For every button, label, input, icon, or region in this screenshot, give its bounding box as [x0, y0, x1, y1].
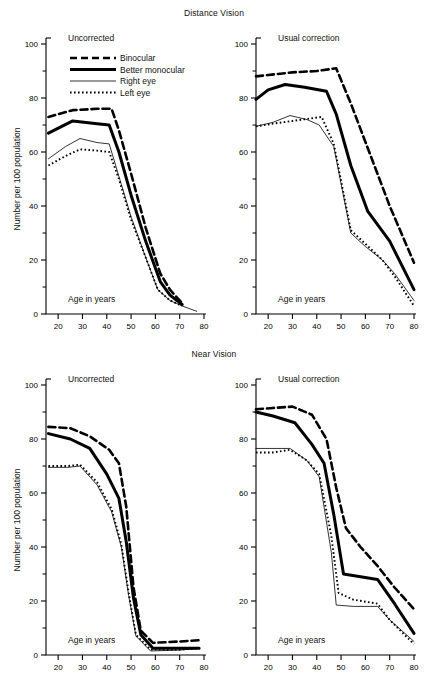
x-axis-caption: Age in years — [278, 635, 325, 645]
y-tick-label: 40 — [239, 543, 248, 552]
panel-caption: Usual correction — [278, 33, 340, 43]
y-tick-label: 0 — [244, 651, 249, 660]
x-tick-label: 70 — [175, 322, 184, 331]
y-tick-label: 20 — [29, 256, 38, 265]
y-tick-label: 60 — [29, 489, 38, 498]
x-tick-label: 40 — [102, 322, 111, 331]
y-tick-label: 100 — [235, 381, 249, 390]
section-distance-vision: Distance Vision 020406080100203040506070… — [0, 0, 428, 341]
x-tick-label: 20 — [54, 663, 63, 672]
y-tick-label: 80 — [239, 435, 248, 444]
legend-label-binocular: Binocular — [120, 53, 156, 63]
y-tick-label: 80 — [29, 435, 38, 444]
x-tick-label: 80 — [410, 663, 419, 672]
x-tick-label: 70 — [175, 663, 184, 672]
plot-near-usual-correction: 02040608010020304050607080Usual correcti… — [218, 363, 420, 673]
y-tick-label: 40 — [239, 202, 248, 211]
panel-near-uncorrected: 02040608010020304050607080UncorrectedAge… — [8, 363, 210, 673]
panel-near-usual-correction: 02040608010020304050607080Usual correcti… — [218, 363, 420, 673]
axis-spine — [256, 379, 416, 655]
y-axis-label: Number per 100 population — [12, 468, 22, 571]
x-tick-label: 70 — [385, 663, 394, 672]
x-tick-label: 50 — [337, 322, 346, 331]
x-axis-caption: Age in years — [278, 294, 325, 304]
x-tick-label: 30 — [78, 663, 87, 672]
section-title-near: Near Vision — [0, 349, 428, 359]
y-tick-label: 20 — [239, 597, 248, 606]
y-tick-label: 100 — [25, 40, 39, 49]
series-line-binocular — [256, 68, 414, 262]
section-near-vision: Near Vision 02040608010020304050607080Un… — [0, 341, 428, 682]
y-tick-label: 20 — [239, 256, 248, 265]
x-tick-label: 50 — [127, 663, 136, 672]
y-tick-label: 40 — [29, 543, 38, 552]
y-tick-label: 60 — [239, 148, 248, 157]
plot-distance-uncorrected: 02040608010020304050607080UncorrectedAge… — [8, 22, 210, 332]
vision-charts-figure: Distance Vision 020406080100203040506070… — [0, 0, 428, 682]
x-tick-label: 70 — [385, 322, 394, 331]
y-tick-label: 20 — [29, 597, 38, 606]
legend-label-better-monocular: Better monocular — [120, 65, 185, 75]
y-tick-label: 60 — [239, 489, 248, 498]
plot-distance-usual-correction: 02040608010020304050607080Usual correcti… — [218, 22, 420, 332]
plot-near-uncorrected: 02040608010020304050607080UncorrectedAge… — [8, 363, 210, 673]
x-axis-caption: Age in years — [68, 294, 115, 304]
x-tick-label: 80 — [410, 322, 419, 331]
x-tick-label: 40 — [312, 322, 321, 331]
series-line-better-monocular — [48, 121, 182, 305]
y-tick-label: 0 — [34, 310, 39, 319]
series-line-binocular — [256, 407, 414, 609]
axis-spine — [256, 38, 416, 314]
legend-label-left-eye: Left eye — [120, 88, 151, 98]
y-tick-label: 0 — [244, 310, 249, 319]
x-tick-label: 30 — [288, 663, 297, 672]
x-tick-label: 20 — [264, 322, 273, 331]
series-line-better-monocular — [256, 85, 414, 290]
x-tick-label: 30 — [78, 322, 87, 331]
y-tick-label: 100 — [235, 40, 249, 49]
x-tick-label: 60 — [151, 322, 160, 331]
y-tick-label: 80 — [29, 94, 38, 103]
x-tick-label: 20 — [264, 663, 273, 672]
x-tick-label: 30 — [288, 322, 297, 331]
y-tick-label: 40 — [29, 202, 38, 211]
x-tick-label: 50 — [337, 663, 346, 672]
series-line-better-monocular — [48, 434, 199, 649]
series-line-better-monocular — [256, 412, 414, 633]
y-tick-label: 100 — [25, 381, 39, 390]
x-tick-label: 60 — [361, 322, 370, 331]
y-tick-label: 0 — [34, 651, 39, 660]
x-tick-label: 80 — [200, 663, 209, 672]
y-tick-label: 80 — [239, 94, 248, 103]
section-title-distance: Distance Vision — [0, 8, 428, 18]
x-tick-label: 50 — [127, 322, 136, 331]
y-axis-label: Number per 100 population — [12, 127, 22, 230]
x-tick-label: 40 — [102, 663, 111, 672]
x-axis-caption: Age in years — [68, 635, 115, 645]
x-tick-label: 60 — [151, 663, 160, 672]
panel-caption: Uncorrected — [68, 33, 115, 43]
x-tick-label: 80 — [200, 322, 209, 331]
y-tick-label: 60 — [29, 148, 38, 157]
x-tick-label: 20 — [54, 322, 63, 331]
x-tick-label: 40 — [312, 663, 321, 672]
panel-caption: Uncorrected — [68, 374, 115, 384]
legend-label-right-eye: Right eye — [120, 76, 156, 86]
panel-caption: Usual correction — [278, 374, 340, 384]
panel-distance-uncorrected: 02040608010020304050607080UncorrectedAge… — [8, 22, 210, 332]
panel-distance-usual-correction: 02040608010020304050607080Usual correcti… — [218, 22, 420, 332]
series-line-left-eye — [256, 117, 414, 306]
x-tick-label: 60 — [361, 663, 370, 672]
